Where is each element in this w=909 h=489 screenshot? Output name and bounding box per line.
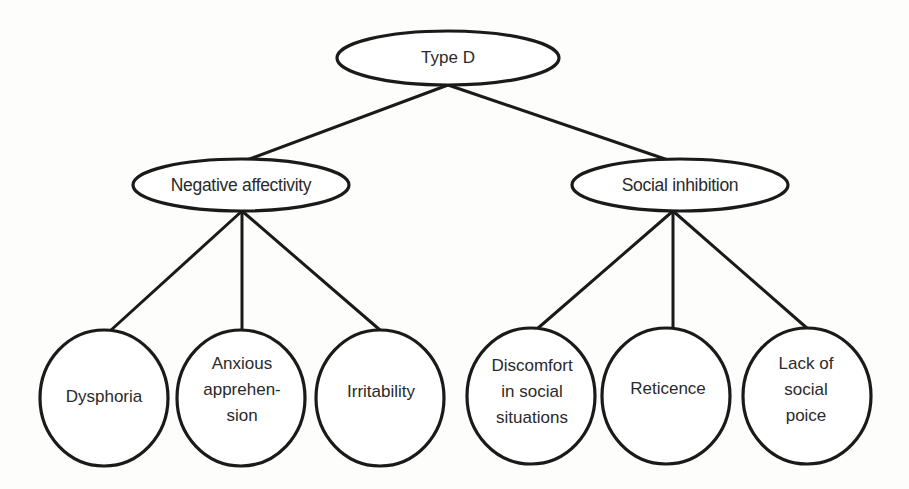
node-lack-of-social-poice-label: Lack of social poice [779,351,834,429]
node-reticence-label: Reticence [630,376,706,402]
node-dysphoria-label: Dysphoria [66,384,143,410]
edge-social-inhibition-discomfort [537,211,673,329]
edge-negative-affectivity-dysphoria [110,211,242,331]
node-social-inhibition-label: Social inhibition [622,172,739,198]
node-type-d-label: Type D [421,45,475,71]
node-negative-affectivity-label: Negative affectivity [171,172,312,198]
diagram-canvas: Type D Negative affectivity Social inhib… [0,0,909,489]
node-anxious-apprehension-label: Anxious apprehen- sion [203,351,281,429]
node-discomfort-label: Discomfort in social situations [491,353,572,431]
edge-typed-social-inhibition [448,85,668,160]
edge-social-inhibition-lack-of-social-poice [673,211,808,329]
node-irritability-label: Irritability [347,379,415,405]
tree-diagram [0,0,909,489]
edge-typed-negative-affectivity [247,85,448,160]
edge-negative-affectivity-irritability [242,211,380,330]
